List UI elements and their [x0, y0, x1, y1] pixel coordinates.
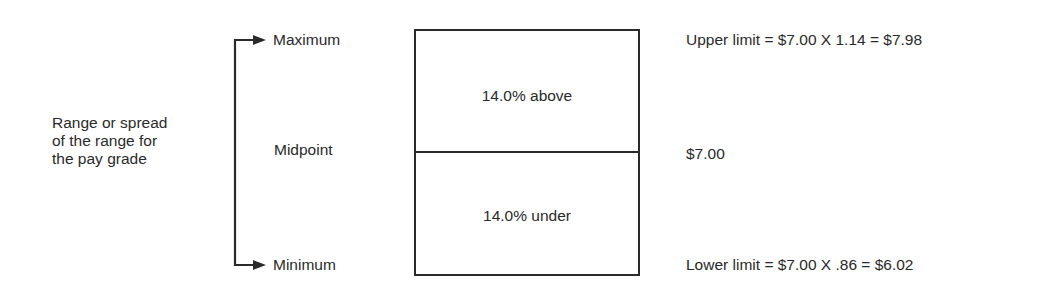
- pay-range-box: 14.0% above 14.0% under: [414, 29, 640, 276]
- upper-limit-calculation: Upper limit = $7.00 X 1.14 = $7.98: [686, 31, 922, 49]
- lower-limit-calculation: Lower limit = $7.00 X .86 = $6.02: [686, 256, 913, 274]
- midpoint-label: Midpoint: [274, 141, 333, 159]
- arrow-right-icon: [253, 260, 266, 270]
- midpoint-divider: [416, 151, 638, 153]
- maximum-label: Maximum: [273, 31, 340, 49]
- upper-half-label: 14.0% above: [416, 87, 638, 105]
- minimum-label: Minimum: [273, 256, 336, 274]
- arrow-right-icon: [253, 35, 266, 45]
- lower-half-label: 14.0% under: [416, 207, 638, 225]
- midpoint-value: $7.00: [686, 145, 725, 163]
